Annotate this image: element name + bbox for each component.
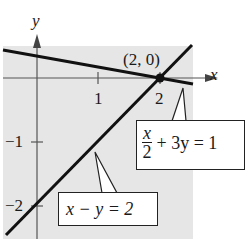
intersection-point [156, 74, 165, 83]
callout-eq2: x − y = 2 [66, 200, 133, 218]
y-tick-label-neg2: −2 [5, 197, 23, 214]
y-axis-label: y [32, 12, 40, 29]
x-tick-label-2: 2 [155, 90, 164, 107]
numerator: x [142, 124, 152, 143]
x-axis-label: x [210, 66, 218, 83]
x-tick-label-1: 1 [94, 90, 103, 107]
fraction: x 2 [142, 124, 152, 161]
equation-rest: + 3y = 1 [157, 133, 218, 153]
callout-eq1: x 2 + 3y = 1 [142, 124, 217, 161]
y-tick-label-neg1: −1 [5, 133, 23, 150]
denominator: 2 [142, 143, 152, 161]
point-label: (2, 0) [123, 51, 160, 68]
y-axis-arrow-icon [33, 34, 41, 48]
